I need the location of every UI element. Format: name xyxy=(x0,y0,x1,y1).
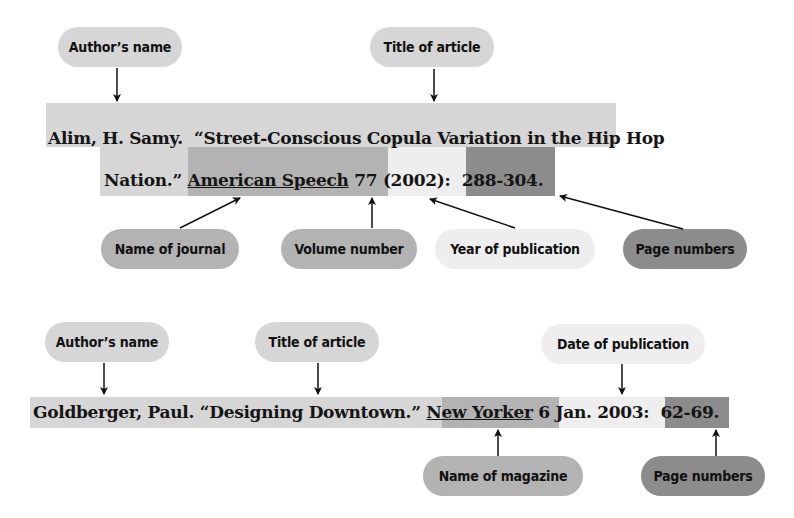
arrow-journal xyxy=(180,198,240,228)
arrow-year xyxy=(430,199,515,228)
arrow-pages-1 xyxy=(560,196,683,229)
arrows-overlay xyxy=(0,0,794,518)
